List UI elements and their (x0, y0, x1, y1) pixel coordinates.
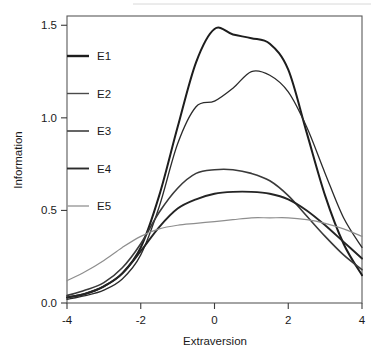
y-axis-ticks (61, 25, 67, 303)
legend-label-e1: E1 (97, 50, 111, 62)
y-tick-label: 1.5 (41, 19, 57, 31)
curve-e4 (67, 192, 362, 298)
x-tick-label: 2 (285, 314, 291, 326)
curve-e1 (67, 28, 362, 298)
data-curves (67, 28, 362, 300)
curve-e3 (67, 169, 362, 295)
x-axis-title: Extraversion (183, 335, 247, 347)
y-tick-label: 0.0 (41, 297, 57, 309)
curve-e2 (67, 71, 362, 300)
x-axis-ticks (67, 303, 362, 309)
x-tick-label: -2 (136, 314, 146, 326)
y-tick-label: 1.0 (41, 112, 57, 124)
chart-legend: E1E2E3E4E5 (67, 50, 112, 212)
x-tick-label: -4 (62, 314, 73, 326)
y-axis-tick-labels: 0.00.51.01.5 (41, 19, 57, 309)
information-curves-chart: -4-2024 0.00.51.01.5 E1E2E3E4E5 Extraver… (0, 0, 381, 355)
y-axis-title: Information (12, 131, 24, 189)
legend-label-e3: E3 (97, 125, 111, 137)
x-axis-tick-labels: -4-2024 (62, 314, 366, 326)
legend-label-e4: E4 (97, 163, 112, 175)
legend-label-e2: E2 (97, 88, 111, 100)
y-tick-label: 0.5 (41, 204, 57, 216)
plot-frame (67, 16, 362, 303)
legend-label-e5: E5 (97, 200, 111, 212)
chart-container: -4-2024 0.00.51.01.5 E1E2E3E4E5 Extraver… (0, 0, 381, 355)
x-tick-label: 0 (211, 314, 217, 326)
x-tick-label: 4 (359, 314, 366, 326)
